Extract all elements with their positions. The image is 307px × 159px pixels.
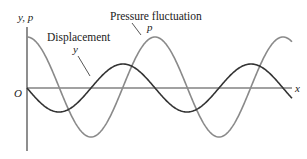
displacement-title-label: Displacement <box>47 31 111 44</box>
origin-label: O <box>14 87 22 99</box>
wave-diagram: y, p O x Pressure fluctuation p Displace… <box>0 0 307 159</box>
pressure-title-label: Pressure fluctuation <box>110 10 202 22</box>
pressure-symbol-label: p <box>146 21 153 33</box>
displacement-leader-line <box>78 56 90 76</box>
pressure-fluctuation-curve <box>27 37 292 137</box>
y-axis-label: y, p <box>17 11 34 23</box>
displacement-symbol-label: y <box>72 43 78 55</box>
x-axis-label: x <box>294 82 300 94</box>
pressure-leader-line <box>132 23 141 35</box>
